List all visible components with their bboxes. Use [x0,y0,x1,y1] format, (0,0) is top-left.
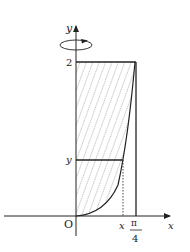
y-top-value: 2 [66,57,72,68]
x-value-label: x [119,220,125,231]
y-axis-label: y [65,22,73,35]
pi-numerator: π [131,218,137,228]
diagram: y 2 y O x π 4 x [0,0,190,252]
pi-denominator: 4 [132,233,138,244]
x-axis-label: x [168,220,174,231]
y-level-label: y [65,154,72,165]
origin-label: O [64,218,73,231]
